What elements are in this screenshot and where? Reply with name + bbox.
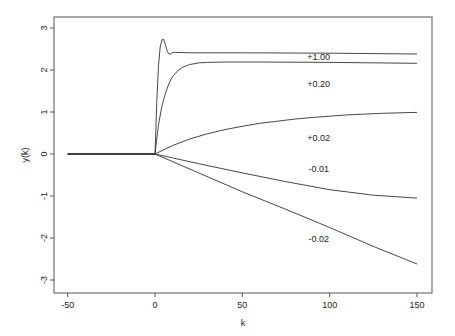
x-tick-label: 100 bbox=[322, 300, 337, 310]
line-chart: -3-2-10123 -50050100150 +1.00+0.20+0.02-… bbox=[0, 0, 455, 336]
x-tick-label: -50 bbox=[61, 300, 74, 310]
series-label: +0.20 bbox=[307, 79, 330, 89]
y-axis: -3-2-10123 bbox=[39, 25, 54, 284]
x-tick-label: 0 bbox=[152, 300, 157, 310]
series-label: -0.02 bbox=[308, 234, 329, 244]
y-axis-label: y(k) bbox=[20, 148, 30, 163]
plot-frame bbox=[54, 17, 432, 293]
x-tick-label: 50 bbox=[237, 300, 247, 310]
x-tick-label: 150 bbox=[409, 300, 424, 310]
series-label: +1.00 bbox=[307, 52, 330, 62]
y-tick-label: 1 bbox=[39, 109, 49, 114]
y-tick-label: -1 bbox=[39, 192, 49, 200]
x-axis-label: k bbox=[241, 318, 246, 328]
series-label: +0.02 bbox=[307, 133, 330, 143]
y-tick-label: 3 bbox=[39, 25, 49, 30]
series-line bbox=[68, 112, 417, 154]
series-line bbox=[68, 154, 417, 264]
y-tick-label: 2 bbox=[39, 67, 49, 72]
series-line bbox=[68, 39, 417, 154]
y-tick-label: -3 bbox=[39, 276, 49, 284]
series-line bbox=[68, 62, 417, 154]
series-label: -0.01 bbox=[308, 164, 329, 174]
x-axis: -50050100150 bbox=[61, 293, 424, 310]
y-tick-label: -2 bbox=[39, 234, 49, 242]
y-tick-label: 0 bbox=[39, 151, 49, 156]
series-lines bbox=[68, 39, 417, 264]
series-labels: +1.00+0.20+0.02-0.01-0.02 bbox=[307, 52, 330, 245]
